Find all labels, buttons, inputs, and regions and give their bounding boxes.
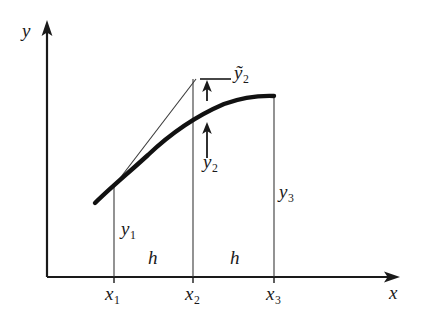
y-axis [42,20,53,277]
x1-subscript: 1 [114,294,120,307]
ordinate-lines [114,79,274,277]
y2-tilde-subscript: 2 [243,73,249,86]
y1-subscript: 1 [130,229,136,242]
y2-label: y2 [203,152,217,171]
y1-base: y [121,218,129,239]
y2-base: y [203,151,211,172]
y2-tilde-label: ỹ2 [234,63,248,82]
y1-label: y1 [121,219,135,238]
x-axis [47,272,400,283]
y3-base: y [279,181,287,202]
h-left-label: h [148,248,158,267]
y2-subscript: 2 [212,162,218,175]
function-curve [95,96,274,203]
y2tilde-annotation [200,79,231,101]
y-axis-label: y [22,21,30,40]
x-axis-label: x [389,283,397,302]
figure-canvas: y x x1 x2 x3 y1 y2 y3 ỹ2 h h [0,0,426,323]
x1-base: x [105,283,113,304]
x2-subscript: 2 [194,294,200,307]
y2-tilde-base: ỹ [234,62,242,83]
x2-base: x [185,283,193,304]
y3-subscript: 3 [288,192,294,205]
x3-subscript: 3 [275,294,281,307]
h-right-label: h [230,248,240,267]
x3-label: x3 [266,284,280,303]
x3-base: x [266,283,274,304]
chord-line [114,79,196,186]
x2-label: x2 [185,284,199,303]
x1-label: x1 [105,284,119,303]
y3-label: y3 [279,182,293,201]
